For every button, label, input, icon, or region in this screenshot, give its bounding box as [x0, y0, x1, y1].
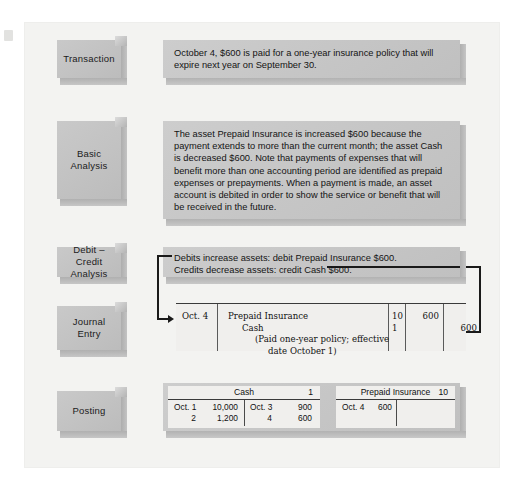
debit-analysis-line: Debits increase assets: debit Prepaid In…	[174, 252, 449, 264]
stage-label-text: Posting	[68, 405, 109, 417]
t-account-center-rule	[396, 400, 397, 426]
corner-fold	[115, 387, 127, 397]
journal-debit-amount: 600	[409, 311, 439, 321]
journal-explanation-line-2: date October 1)	[228, 346, 389, 358]
basic-analysis-text: The asset Prepaid Insurance is increased…	[174, 128, 449, 213]
t-account-header: Prepaid Insurance 10	[336, 386, 455, 400]
t-credit-amount-2: 600	[276, 413, 312, 424]
stage-label-text: Transaction	[59, 53, 118, 65]
connector-credit-vertical	[479, 266, 481, 332]
journal-ref-debit: 10	[392, 311, 403, 323]
t-debit-date-1: Oct. 4	[342, 402, 364, 413]
credit-analysis-line: Credits decrease assets: credit Cash $60…	[174, 264, 449, 276]
stage-label-posting: Posting	[57, 391, 121, 431]
corner-fold	[115, 117, 127, 127]
stage-label-text: Basic Analysis	[67, 148, 112, 172]
t-debit-amount-2: 1,200	[198, 413, 238, 424]
connector-debit-vertical	[157, 255, 159, 319]
journal-entry-row: Oct. 4 Prepaid Insurance Cash (Paid one-…	[176, 304, 466, 351]
t-account-number: 1	[308, 387, 313, 397]
figure-root: Transaction Basic Analysis Debit – Credi…	[0, 0, 524, 491]
t-account-body: Oct. 1 10,000 2 1,200 Oct. 3 900 4 600	[168, 400, 320, 426]
journal-entry-table: Oct. 4 Prepaid Insurance Cash (Paid one-…	[176, 303, 466, 351]
journal-accounts: Prepaid Insurance Cash (Paid one-year po…	[228, 311, 389, 357]
corner-fold	[115, 36, 127, 46]
transaction-box: October 4, $600 is paid for a one-year i…	[163, 40, 460, 78]
stage-label-transaction: Transaction	[57, 40, 121, 78]
t-credit-date-1: Oct. 3	[250, 402, 272, 413]
journal-date: Oct. 4	[182, 311, 208, 321]
t-account-center-rule	[244, 400, 245, 426]
connector-debit-arrowhead-icon	[168, 315, 174, 323]
journal-col-divider-date	[217, 304, 218, 351]
stage-label-text: Journal Entry	[69, 316, 110, 340]
t-account-cash: Cash 1 Oct. 1 10,000 2 1,200 Oct. 3 900 …	[168, 386, 320, 428]
journal-explanation-line-1: (Paid one-year policy; effective	[228, 334, 389, 346]
connector-debit-stub	[157, 255, 172, 257]
transaction-text: October 4, $600 is paid for a one-year i…	[174, 47, 449, 71]
scan-artifact	[4, 30, 13, 41]
journal-ref-column: 10 1	[392, 311, 403, 334]
journal-credit-amount: 600	[447, 323, 477, 333]
basic-analysis-box: The asset Prepaid Insurance is increased…	[163, 121, 460, 219]
stage-label-text: Debit – Credit Analysis	[57, 244, 121, 280]
stage-label-debit-credit-analysis: Debit – Credit Analysis	[57, 247, 121, 277]
t-account-number: 10	[438, 387, 448, 397]
stage-label-basic-analysis: Basic Analysis	[57, 121, 121, 199]
stage-label-journal-entry: Journal Entry	[57, 306, 121, 350]
t-credit-amount-1: 900	[276, 402, 312, 413]
t-debit-amount-1: 10,000	[198, 402, 238, 413]
journal-credit-account: Cash	[228, 323, 389, 335]
t-account-body: Oct. 4 600	[336, 400, 455, 426]
corner-fold	[115, 302, 127, 312]
debit-credit-analysis-box: Debits increase assets: debit Prepaid In…	[163, 247, 460, 277]
t-account-title: Prepaid Insurance	[336, 387, 455, 397]
journal-col-divider-credit	[443, 304, 444, 351]
journal-col-divider-debit	[405, 304, 406, 351]
t-credit-date-2: 4	[250, 413, 272, 424]
t-account-prepaid-insurance: Prepaid Insurance 10 Oct. 4 600	[336, 386, 455, 428]
t-account-header: Cash 1	[168, 386, 320, 400]
journal-ref-credit: 1	[392, 323, 403, 335]
journal-debit-account: Prepaid Insurance	[228, 311, 389, 323]
t-debit-date-2: 2	[174, 413, 196, 424]
t-debit-date-1: Oct. 1	[174, 402, 196, 413]
t-debit-amount-1: 600	[366, 402, 392, 413]
t-account-title: Cash	[168, 387, 320, 397]
